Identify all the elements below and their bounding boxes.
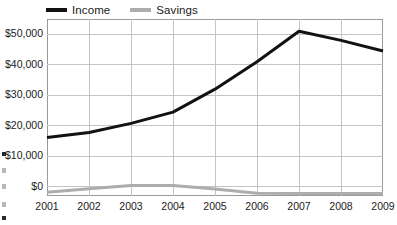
x-axis-tick-label: 2009 — [361, 200, 397, 212]
chart-legend: Income Savings — [0, 0, 397, 19]
y-axis-tick-label: $40,000 — [0, 59, 43, 70]
legend-item-savings[interactable]: Savings — [130, 4, 198, 16]
plot-area — [47, 19, 383, 196]
y-axis-tick-label: $10,000 — [0, 150, 43, 161]
legend-item-income[interactable]: Income — [46, 4, 110, 16]
vertical-gridlines — [89, 19, 341, 196]
x-axis-tick-label: 2003 — [109, 200, 153, 212]
line-chart: Income Savings $0$10,000$20,000$30,000$4… — [0, 0, 397, 225]
x-axis-tick-label: 2002 — [67, 200, 111, 212]
x-axis-tick-label: 2005 — [193, 200, 237, 212]
x-axis-tick-label: 2008 — [319, 200, 363, 212]
x-axis-labels: 200120022003200420052006200720082009 — [47, 200, 383, 220]
x-axis-tick-label: 2004 — [151, 200, 195, 212]
legend-swatch-income-icon — [46, 8, 67, 12]
y-axis-tick-label: $50,000 — [0, 28, 43, 39]
x-axis-tick-label: 2007 — [277, 200, 321, 212]
legend-label-income: Income — [72, 4, 110, 16]
legend-label-savings: Savings — [156, 4, 198, 16]
y-axis-labels: $0$10,000$20,000$30,000$40,000$50,000 — [0, 0, 43, 225]
legend-swatch-savings-icon — [130, 8, 151, 12]
x-axis-tick-label: 2006 — [235, 200, 279, 212]
y-axis-tick-label: $30,000 — [0, 89, 43, 100]
x-axis-tick-label: 2001 — [25, 200, 69, 212]
y-axis-tick-label: $20,000 — [0, 120, 43, 131]
y-axis-tick-label: $0 — [0, 181, 43, 192]
